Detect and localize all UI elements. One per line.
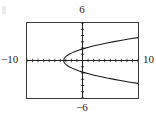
x-max-label: 10 bbox=[143, 54, 154, 65]
y-max-label: 6 bbox=[4, 4, 156, 15]
y-min-label: −6 bbox=[4, 102, 156, 113]
x-min-label: −10 bbox=[1, 54, 18, 65]
plot-frame bbox=[26, 22, 139, 99]
graphing-calculator-viewport: 6 −6 −10 10 bbox=[0, 0, 156, 115]
parabola-plot bbox=[27, 23, 138, 98]
